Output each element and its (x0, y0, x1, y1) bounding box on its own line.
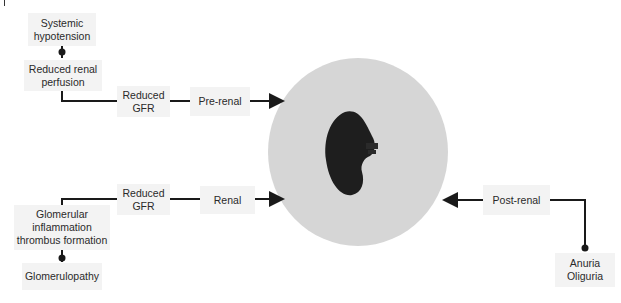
glomerulopathy-box: Glomerulopathy (22, 263, 102, 290)
glomerular-inflammation-box: Glomerular inflammation thrombus formati… (14, 205, 110, 250)
renal-reduced-gfr-box: Reduced GFR (117, 184, 170, 215)
postrenal-box: Post-renal (483, 185, 550, 215)
kidney-icon (325, 111, 378, 195)
prerenal-reduced-gfr-box: Reduced GFR (117, 86, 170, 117)
renal-box: Renal (200, 186, 255, 214)
reduced-renal-perfusion-box: Reduced renal perfusion (24, 60, 102, 91)
systemic-hypotension-box: Systemic hypotension (28, 13, 96, 46)
anuria-oliguria-box: Anuria Oliguria (555, 253, 615, 287)
prerenal-box: Pre-renal (190, 87, 250, 116)
